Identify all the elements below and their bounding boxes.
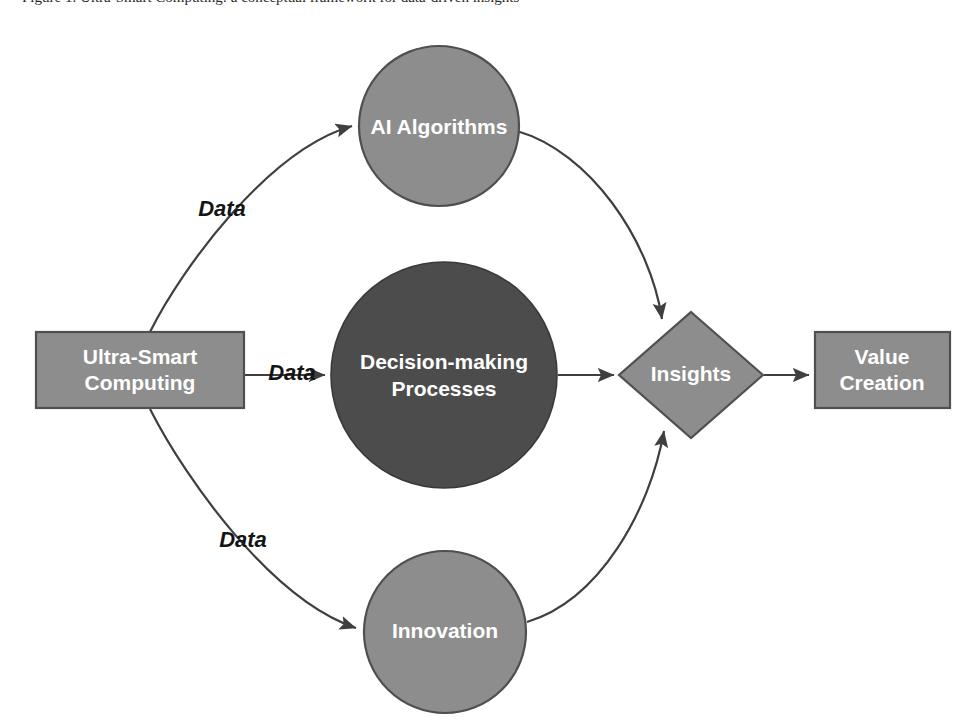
figure-canvas: Figure 1. Ultra-Smart Computing: a conce… [0,0,973,727]
decision-making-processes-label-line2: Processes [391,377,496,400]
value-creation-label-line2: Creation [839,371,924,394]
insights-label: Insights [651,362,732,385]
edge-label-data-lower: Data [219,527,267,552]
node-ultra-smart-computing[interactable]: Ultra-Smart Computing [36,332,244,408]
node-layer: Ultra-Smart Computing AI Algorithms Deci… [36,46,950,713]
edge-computing-to-innovation [150,409,356,628]
node-value-creation[interactable]: Value Creation [815,332,950,408]
edge-label-data-middle: Data [268,360,316,385]
ai-algorithms-label: AI Algorithms [371,115,508,138]
decision-making-processes-shape[interactable] [331,262,557,488]
ultra-smart-computing-label-line1: Ultra-Smart [83,345,197,368]
node-insights[interactable]: Insights [619,312,763,438]
decision-making-processes-label-line1: Decision-making [360,350,528,373]
node-decision-making-processes[interactable]: Decision-making Processes [331,262,557,488]
edge-label-data-upper: Data [198,196,246,221]
value-creation-label-line1: Value [855,345,910,368]
edge-innovation-to-insights [527,431,664,622]
innovation-label: Innovation [392,619,498,642]
ultra-smart-computing-label-line2: Computing [85,371,196,394]
node-innovation[interactable]: Innovation [364,551,526,713]
node-ai-algorithms[interactable]: AI Algorithms [359,46,519,206]
edge-ai-to-insights [517,131,662,319]
flow-diagram: Ultra-Smart Computing AI Algorithms Deci… [0,0,973,727]
edge-computing-to-ai [150,126,352,332]
